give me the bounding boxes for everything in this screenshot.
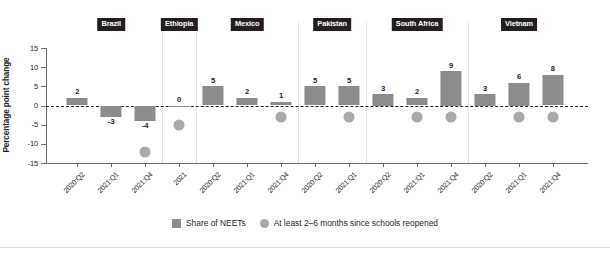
scatter-dot <box>140 147 151 158</box>
x-tick <box>145 163 146 167</box>
bar-value-label: 9 <box>449 62 453 70</box>
x-axis-line <box>46 163 588 164</box>
legend-square-icon <box>172 219 181 228</box>
x-tick-label: 2020:Q2 <box>300 170 325 195</box>
y-tick <box>41 86 46 87</box>
x-tick <box>349 163 350 167</box>
bar <box>203 86 224 105</box>
group-label-mexico: Mexico <box>231 18 263 31</box>
bar <box>67 98 88 106</box>
bar <box>101 106 122 118</box>
bar-value-label: 8 <box>551 65 555 73</box>
group-divider <box>366 22 367 163</box>
bar-value-label: 5 <box>211 77 215 85</box>
bar-value-label: -3 <box>108 118 115 126</box>
y-tick-label: -15 <box>16 159 38 168</box>
x-tick-label: 2021:Q1 <box>334 170 359 195</box>
y-tick <box>41 144 46 145</box>
bar <box>373 94 394 106</box>
x-tick <box>77 163 78 167</box>
bar <box>305 86 326 105</box>
scatter-dot <box>344 112 355 123</box>
group-divider <box>298 22 299 163</box>
y-tick <box>41 163 46 164</box>
scatter-dot <box>514 112 525 123</box>
scatter-dot <box>446 112 457 123</box>
bar <box>237 98 258 106</box>
legend-item-share-of-neets: Share of NEETs <box>172 218 246 228</box>
x-tick-label: 2020:Q2 <box>368 170 393 195</box>
chart-container: Percentage point change 151050-5-10-15 2… <box>0 0 610 258</box>
legend-circle-icon <box>260 219 269 228</box>
x-tick-label: 2020:Q2 <box>198 170 223 195</box>
bar <box>508 83 529 106</box>
plot-area: 151050-5-10-15 2-3-4052155329368 2020:Q2… <box>46 48 588 163</box>
y-tick-label: 0 <box>16 101 38 110</box>
x-tick-label: 2021 <box>171 170 188 187</box>
bar-value-label: 2 <box>75 88 79 96</box>
y-tick <box>41 67 46 68</box>
x-tick-label: 2021:Q4 <box>266 170 291 195</box>
x-tick <box>383 163 384 167</box>
bar-value-label: 1 <box>279 92 283 100</box>
bar-value-label: 0 <box>177 96 181 104</box>
x-tick-label: 2021:Q1 <box>503 170 528 195</box>
legend-label-share-of-neets: Share of NEETs <box>186 218 246 228</box>
scatter-dot <box>276 112 287 123</box>
bar <box>542 75 563 106</box>
bar-value-label: 6 <box>517 73 521 81</box>
y-tick <box>41 48 46 49</box>
bar-value-label: 3 <box>483 85 487 93</box>
bar <box>441 71 462 106</box>
y-tick-label: 10 <box>16 63 38 72</box>
x-tick-label: 2021:Q1 <box>96 170 121 195</box>
x-tick <box>111 163 112 167</box>
group-label-brazil: Brazil <box>97 18 125 31</box>
footer-divider <box>0 247 610 248</box>
group-divider <box>468 22 469 163</box>
y-tick-label: 5 <box>16 82 38 91</box>
group-label-south-africa: South Africa <box>392 18 442 31</box>
legend-label-schools-reopened: At least 2–6 months since schools reopen… <box>274 218 438 228</box>
bar-value-label: 5 <box>313 77 317 85</box>
x-tick-label: 2021:Q1 <box>402 170 427 195</box>
legend-item-schools-reopened: At least 2–6 months since schools reopen… <box>260 218 438 228</box>
x-tick <box>247 163 248 167</box>
scatter-dot <box>174 120 185 131</box>
y-tick-label: 15 <box>16 44 38 53</box>
x-tick <box>553 163 554 167</box>
x-tick-label: 2021:Q4 <box>436 170 461 195</box>
x-tick <box>485 163 486 167</box>
bar <box>271 102 292 106</box>
group-label-pakistan: Pakistan <box>313 18 351 31</box>
group-divider <box>162 22 163 163</box>
bar-value-label: -4 <box>142 122 149 130</box>
bar <box>475 94 496 106</box>
x-tick-label: 2020:Q2 <box>470 170 495 195</box>
group-label-vietnam: Vietnam <box>501 18 537 31</box>
chart-legend: Share of NEETs At least 2–6 months since… <box>0 218 610 228</box>
bar <box>407 98 428 106</box>
group-label-ethiopia: Ethiopia <box>161 18 197 31</box>
y-tick <box>41 125 46 126</box>
scatter-dot <box>412 112 423 123</box>
bar <box>135 106 156 121</box>
bar-value-label: 2 <box>415 88 419 96</box>
y-tick-label: -5 <box>16 120 38 129</box>
x-tick <box>451 163 452 167</box>
x-tick-label: 2021:Q4 <box>537 170 562 195</box>
x-tick <box>213 163 214 167</box>
scatter-dot <box>547 112 558 123</box>
x-tick <box>417 163 418 167</box>
x-tick-label: 2020:Q2 <box>62 170 87 195</box>
bar <box>339 86 360 105</box>
y-tick-label: -10 <box>16 139 38 148</box>
bar-value-label: 2 <box>245 88 249 96</box>
bar-value-label: 5 <box>347 77 351 85</box>
zero-line <box>46 106 588 107</box>
x-tick <box>179 163 180 167</box>
x-tick <box>315 163 316 167</box>
x-tick-label: 2021:Q1 <box>232 170 257 195</box>
group-divider <box>196 22 197 163</box>
x-tick-label: 2021:Q4 <box>130 170 155 195</box>
